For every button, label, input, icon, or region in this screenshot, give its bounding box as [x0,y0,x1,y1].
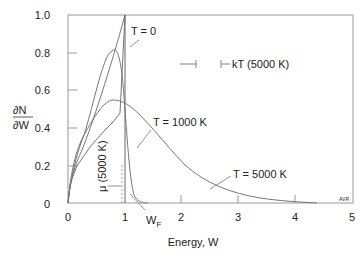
label-t0: T = 0 [131,25,156,37]
svg-text:0.2: 0.2 [35,160,50,172]
svg-text:2: 2 [178,211,184,223]
label-mu: μ (5000 K) [96,140,108,192]
svg-text:1.0: 1.0 [35,9,50,21]
svg-text:3: 3 [235,211,241,223]
label-wf: WF [146,214,161,229]
y-tick-labels: 1.0 0.8 0.6 0.4 0.2 0 [35,9,50,210]
svg-text:0.6: 0.6 [35,84,50,96]
label-kt: kT (5000 K) [232,58,289,70]
y-axis-ticks [68,53,77,166]
svg-text:∂N: ∂N [13,104,26,116]
svg-text:4: 4 [292,211,298,223]
svg-text:5: 5 [349,211,355,223]
svg-text:∂W: ∂W [13,119,29,131]
label-avr: AVR [339,196,349,202]
y-axis-label: ∂N ∂W [13,104,33,131]
svg-text:0: 0 [65,211,71,223]
svg-text:0: 0 [44,198,50,210]
x-tick-labels: 0 1 2 3 4 5 [65,211,355,223]
x-axis-ticks [181,195,295,203]
svg-text:0.4: 0.4 [35,122,50,134]
kt-marker [180,60,230,68]
x-axis-label: Energy, W [168,236,219,248]
label-t1000: T = 1000 K [153,116,208,128]
label-t5000: T = 5000 K [233,168,288,180]
svg-text:1: 1 [122,211,128,223]
svg-text:0.8: 0.8 [35,47,50,59]
plot-frame [68,15,353,203]
chart: 1.0 0.8 0.6 0.4 0.2 0 0 1 2 3 4 5 Energy… [0,0,362,256]
arrow-t1000 [137,130,151,148]
arrow-t0 [130,40,139,47]
